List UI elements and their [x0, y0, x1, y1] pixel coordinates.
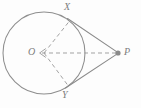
label-tangent-point-x: X	[64, 2, 70, 12]
point-p-dot	[115, 50, 120, 55]
geometry-canvas	[0, 0, 141, 108]
tangent-px-line	[68, 19, 119, 53]
label-tangent-point-y: Y	[62, 90, 68, 100]
geometry-figure: O X Y P	[0, 0, 141, 108]
tangent-py-line	[66, 53, 119, 88]
radius-oy-dashed	[44, 53, 68, 86]
label-external-point-p: P	[124, 47, 130, 57]
label-center-o: O	[28, 47, 35, 57]
radius-ox-dashed	[44, 21, 70, 53]
